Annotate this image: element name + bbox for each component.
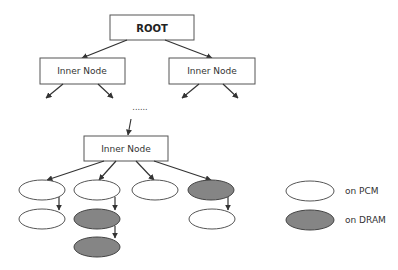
legend-item-pcm: on PCM: [286, 181, 379, 201]
edge-right-child-b: [223, 84, 238, 98]
legend-item-dram: on DRAM: [286, 210, 386, 230]
legend-label-pcm: on PCM: [345, 186, 379, 196]
leaf-node-dram: [74, 237, 120, 257]
edge-to-bottom-inner: [128, 119, 131, 135]
root-node: ROOT: [110, 15, 194, 40]
edge-leaf-3: [136, 161, 154, 180]
inner-node-right: Inner Node: [169, 58, 255, 84]
leaf-node-pcm: [132, 180, 178, 200]
edge-leaf-2: [99, 161, 116, 180]
leaf-node-pcm: [74, 180, 120, 200]
leaf-node-dram: [188, 180, 234, 200]
inner-node-right-label: Inner Node: [187, 66, 237, 76]
edge-left-child-b: [98, 84, 113, 98]
leaf-node-pcm: [19, 209, 65, 229]
inner-node-bottom: Inner Node: [84, 136, 168, 161]
inner-node-left: Inner Node: [40, 58, 125, 84]
leaf-node-pcm: [189, 209, 235, 229]
edge-left-child-a: [46, 84, 63, 98]
edge-leaf-1: [47, 161, 104, 180]
inner-node-bottom-label: Inner Node: [101, 144, 151, 154]
leaf-node-dram: [74, 209, 120, 229]
edge-right-child-a: [182, 84, 199, 98]
edge-leaf-4: [154, 161, 211, 180]
dram-swatch-icon: [286, 210, 334, 230]
ellipsis-text: ......: [132, 103, 147, 112]
pcm-swatch-icon: [286, 181, 334, 201]
inner-node-left-label: Inner Node: [57, 66, 107, 76]
edge-root-left: [82, 40, 127, 58]
root-label: ROOT: [136, 23, 168, 34]
legend-label-dram: on DRAM: [345, 215, 386, 225]
leaf-node-pcm: [19, 180, 65, 200]
edge-root-right: [165, 40, 212, 58]
tree-diagram: ROOT Inner Node Inner Node ...... Inner …: [0, 0, 398, 270]
legend: on PCM on DRAM: [286, 181, 386, 230]
